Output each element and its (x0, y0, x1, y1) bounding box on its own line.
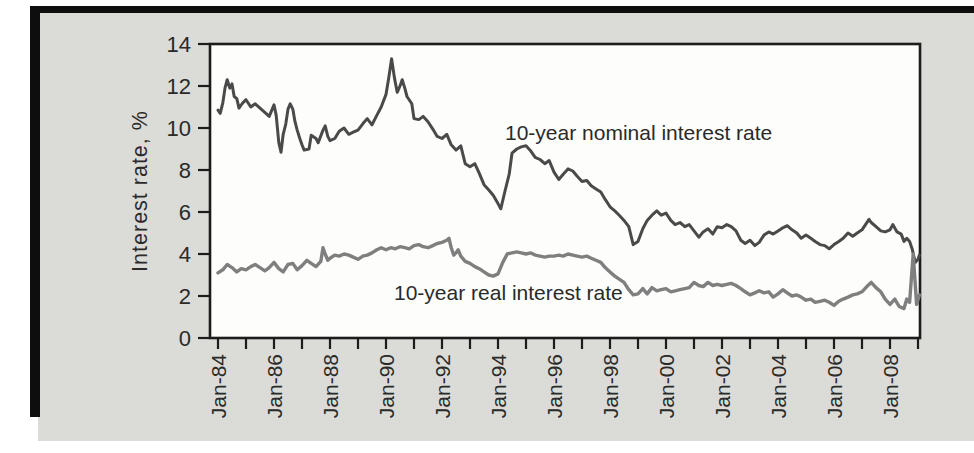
x-tick-label: Jan-02 (711, 354, 734, 418)
x-tick-label: Jan-98 (599, 354, 622, 418)
x-tick-label: Jan-00 (655, 354, 678, 418)
x-axis-tick-labels: Jan-84Jan-86Jan-88Jan-90Jan-92Jan-94Jan-… (207, 354, 902, 419)
y-tick-label: 14 (167, 32, 191, 57)
y-axis-tick-labels: 02468101214 (167, 32, 191, 351)
x-tick-label: Jan-84 (207, 354, 230, 419)
x-tick-label: Jan-92 (431, 354, 454, 418)
y-tick-label: 10 (167, 116, 191, 141)
x-tick-label: Jan-94 (487, 354, 510, 419)
y-tick-label: 2 (179, 284, 191, 309)
scanned-textbook-page: 02468101214 Jan-84Jan-86Jan-88Jan-90Jan-… (0, 0, 974, 453)
x-tick-label: Jan-96 (543, 354, 566, 418)
real-series-label: 10-year real interest rate (394, 281, 623, 304)
interest-rate-chart: 02468101214 Jan-84Jan-86Jan-88Jan-90Jan-… (0, 0, 974, 453)
y-axis-ticks (198, 44, 210, 338)
x-tick-label: Jan-06 (823, 354, 846, 418)
x-tick-label: Jan-86 (263, 354, 286, 418)
x-tick-label: Jan-88 (319, 354, 342, 418)
x-tick-label: Jan-08 (879, 354, 902, 418)
y-tick-label: 4 (179, 242, 191, 267)
y-tick-label: 12 (167, 74, 191, 99)
nominal-series-label: 10-year nominal interest rate (505, 121, 772, 144)
y-axis-title: Interest rate, % (128, 110, 152, 272)
y-tick-label: 6 (179, 200, 191, 225)
y-tick-label: 8 (179, 158, 191, 183)
x-tick-label: Jan-90 (375, 354, 398, 418)
x-tick-label: Jan-04 (767, 354, 790, 419)
x-axis-ticks (218, 338, 918, 349)
y-tick-label: 0 (179, 326, 191, 351)
